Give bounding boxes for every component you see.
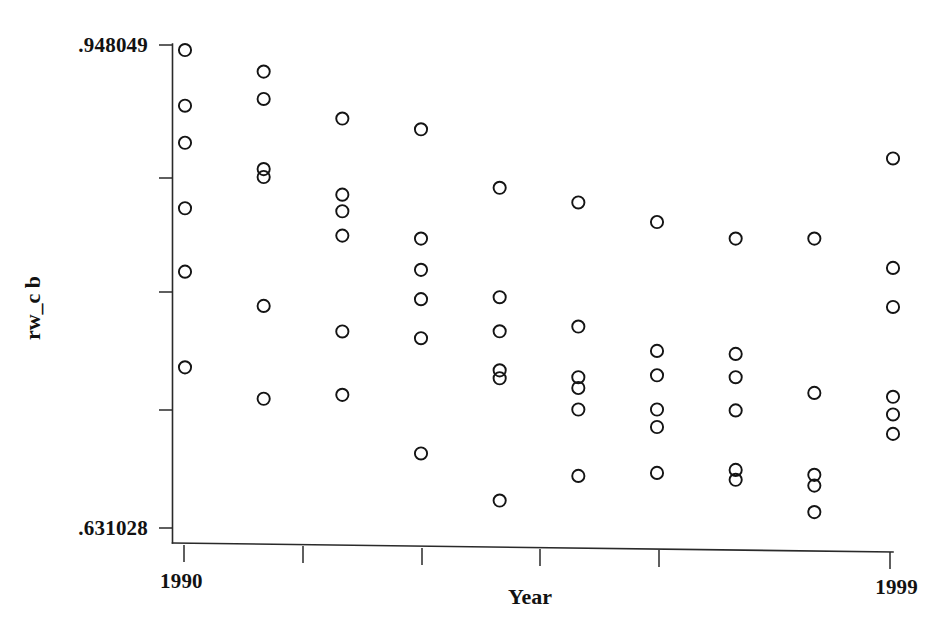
y-axis-top-label: .948049 (78, 33, 148, 57)
data-point (887, 391, 899, 403)
data-point (415, 264, 427, 276)
data-point (494, 372, 506, 384)
data-point (179, 202, 191, 214)
data-point (572, 320, 584, 332)
data-point (179, 100, 191, 112)
x-axis-ticks (184, 545, 890, 569)
data-point (887, 152, 899, 164)
x-axis-last-label: 1999 (875, 575, 918, 599)
data-point (730, 371, 742, 383)
data-point (336, 189, 348, 201)
data-point (651, 403, 663, 415)
data-point (258, 93, 270, 105)
data-point (494, 182, 506, 194)
data-point (415, 293, 427, 305)
data-point (651, 216, 663, 228)
data-point (730, 348, 742, 360)
data-point (730, 404, 742, 416)
x-axis-title: Year (508, 584, 552, 609)
data-point (887, 408, 899, 420)
data-point (887, 262, 899, 274)
data-point (336, 112, 348, 124)
data-point (258, 300, 270, 312)
data-point (258, 66, 270, 78)
data-point (179, 137, 191, 149)
data-point (415, 332, 427, 344)
x-axis-line (173, 543, 894, 552)
data-point (179, 361, 191, 373)
data-points-layer (179, 44, 899, 518)
x-axis-first-label: 1990 (160, 569, 203, 593)
data-point (336, 205, 348, 217)
data-point (808, 233, 820, 245)
data-point (572, 470, 584, 482)
data-point (415, 447, 427, 459)
data-point (336, 325, 348, 337)
y-axis-bottom-label: .631028 (78, 516, 148, 540)
data-point (415, 123, 427, 135)
data-point (651, 421, 663, 433)
data-point (258, 393, 270, 405)
y-axis-title: rw_c b (20, 276, 45, 340)
data-point (730, 233, 742, 245)
data-point (336, 230, 348, 242)
data-point (808, 387, 820, 399)
data-point (179, 44, 191, 56)
data-point (179, 266, 191, 278)
data-point (415, 233, 427, 245)
data-point (336, 389, 348, 401)
data-point (572, 196, 584, 208)
y-axis-ticks (159, 45, 172, 528)
data-point (651, 369, 663, 381)
data-point (887, 428, 899, 440)
data-point (494, 494, 506, 506)
scatter-plot-figure: .948049 .631028 rw_c b 1990 1999 Year (0, 0, 949, 634)
plot-canvas: .948049 .631028 rw_c b 1990 1999 Year (0, 0, 949, 634)
data-point (494, 291, 506, 303)
data-point (572, 403, 584, 415)
data-point (651, 467, 663, 479)
data-point (494, 325, 506, 337)
data-point (258, 171, 270, 183)
data-point (651, 345, 663, 357)
data-point (808, 506, 820, 518)
data-point (887, 301, 899, 313)
